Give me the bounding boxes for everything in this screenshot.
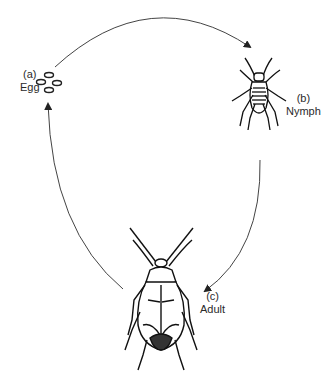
arrow-nymph-to-adult: [205, 160, 260, 291]
adult-letter: (c): [200, 290, 225, 303]
arrow-adult-to-egg: [48, 104, 123, 289]
adult-name: Adult: [200, 303, 225, 316]
nymph-name: Nymph: [286, 105, 321, 118]
egg-letter: (a): [20, 68, 40, 81]
egg-icon: [37, 73, 62, 93]
adult-icon: [125, 228, 197, 370]
egg-label: (a) Egg: [20, 68, 40, 94]
nymph-icon: [232, 58, 286, 130]
adult-label: (c) Adult: [200, 290, 225, 316]
arrow-egg-to-nymph: [55, 18, 250, 67]
nymph-label: (b) Nymph: [286, 92, 321, 118]
nymph-letter: (b): [286, 92, 321, 105]
egg-name: Egg: [20, 81, 40, 94]
life-cycle-diagram: [0, 0, 330, 375]
